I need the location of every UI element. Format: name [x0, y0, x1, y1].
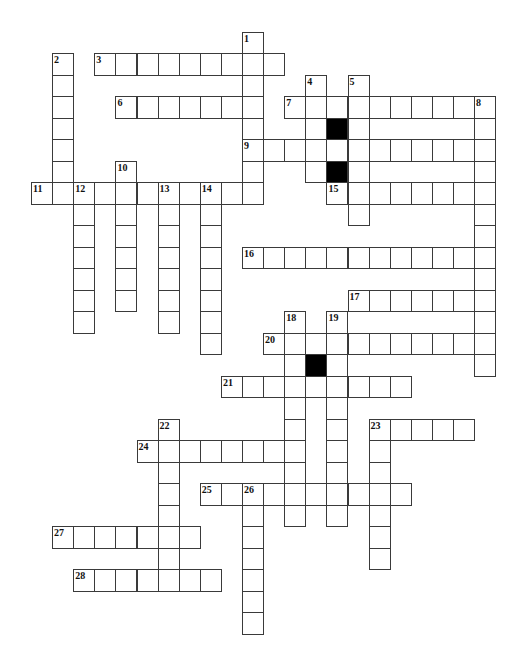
answer-cell[interactable]	[474, 204, 496, 227]
answer-cell[interactable]	[263, 376, 285, 399]
answer-cell[interactable]	[73, 290, 95, 313]
answer-cell[interactable]	[474, 311, 496, 334]
answer-cell[interactable]	[284, 419, 306, 442]
answer-cell[interactable]	[432, 333, 454, 356]
answer-cell[interactable]	[94, 569, 116, 592]
answer-cell[interactable]	[52, 161, 74, 184]
answer-cell[interactable]: 1	[242, 32, 264, 55]
answer-cell[interactable]	[390, 96, 412, 119]
answer-cell[interactable]	[432, 419, 454, 442]
answer-cell[interactable]	[390, 333, 412, 356]
answer-cell[interactable]	[348, 96, 370, 119]
answer-cell[interactable]	[348, 139, 370, 162]
answer-cell[interactable]	[474, 118, 496, 141]
answer-cell[interactable]	[200, 247, 222, 270]
answer-cell[interactable]	[432, 247, 454, 270]
answer-cell[interactable]	[242, 118, 264, 141]
answer-cell[interactable]	[305, 376, 327, 399]
answer-cell[interactable]: 4	[305, 75, 327, 98]
answer-cell[interactable]	[326, 440, 348, 463]
answer-cell[interactable]	[284, 376, 306, 399]
answer-cell[interactable]	[284, 139, 306, 162]
answer-cell[interactable]	[242, 548, 264, 571]
answer-cell[interactable]	[115, 225, 137, 248]
answer-cell[interactable]	[242, 75, 264, 98]
answer-cell[interactable]	[263, 247, 285, 270]
answer-cell[interactable]	[158, 204, 180, 227]
answer-cell[interactable]	[369, 290, 391, 313]
answer-cell[interactable]	[326, 505, 348, 528]
answer-cell[interactable]	[390, 376, 412, 399]
answer-cell[interactable]	[432, 139, 454, 162]
answer-cell[interactable]	[453, 96, 475, 119]
answer-cell[interactable]	[305, 161, 327, 184]
answer-cell[interactable]	[73, 526, 95, 549]
answer-cell[interactable]	[52, 96, 74, 119]
answer-cell[interactable]: 8	[474, 96, 496, 119]
answer-cell[interactable]	[369, 376, 391, 399]
answer-cell[interactable]	[158, 548, 180, 571]
answer-cell[interactable]	[453, 333, 475, 356]
answer-cell[interactable]	[242, 161, 264, 184]
answer-cell[interactable]: 19	[326, 311, 348, 334]
answer-cell[interactable]	[390, 247, 412, 270]
answer-cell[interactable]: 18	[284, 311, 306, 334]
answer-cell[interactable]	[158, 311, 180, 334]
answer-cell[interactable]: 20	[263, 333, 285, 356]
answer-cell[interactable]	[411, 182, 433, 205]
answer-cell[interactable]	[200, 53, 222, 76]
answer-cell[interactable]	[115, 204, 137, 227]
answer-cell[interactable]	[284, 333, 306, 356]
answer-cell[interactable]	[326, 376, 348, 399]
answer-cell[interactable]	[348, 376, 370, 399]
answer-cell[interactable]	[305, 118, 327, 141]
answer-cell[interactable]	[73, 204, 95, 227]
answer-cell[interactable]	[284, 440, 306, 463]
answer-cell[interactable]	[158, 53, 180, 76]
answer-cell[interactable]: 13	[158, 182, 180, 205]
answer-cell[interactable]	[52, 182, 74, 205]
answer-cell[interactable]	[432, 182, 454, 205]
answer-cell[interactable]	[390, 139, 412, 162]
answer-cell[interactable]: 26	[242, 483, 264, 506]
answer-cell[interactable]	[474, 161, 496, 184]
answer-cell[interactable]	[242, 53, 264, 76]
answer-cell[interactable]	[52, 118, 74, 141]
answer-cell[interactable]	[348, 161, 370, 184]
answer-cell[interactable]	[348, 204, 370, 227]
answer-cell[interactable]	[432, 290, 454, 313]
answer-cell[interactable]	[369, 462, 391, 485]
answer-cell[interactable]	[158, 96, 180, 119]
answer-cell[interactable]	[115, 290, 137, 313]
answer-cell[interactable]	[242, 182, 264, 205]
answer-cell[interactable]	[453, 419, 475, 442]
answer-cell[interactable]	[158, 225, 180, 248]
answer-cell[interactable]	[73, 311, 95, 334]
answer-cell[interactable]	[369, 440, 391, 463]
answer-cell[interactable]	[348, 247, 370, 270]
answer-cell[interactable]: 2	[52, 53, 74, 76]
answer-cell[interactable]	[179, 182, 201, 205]
answer-cell[interactable]	[390, 290, 412, 313]
answer-cell[interactable]	[348, 483, 370, 506]
answer-cell[interactable]	[179, 96, 201, 119]
answer-cell[interactable]	[474, 139, 496, 162]
answer-cell[interactable]	[200, 440, 222, 463]
answer-cell[interactable]	[369, 182, 391, 205]
answer-cell[interactable]	[158, 483, 180, 506]
answer-cell[interactable]: 24	[137, 440, 159, 463]
answer-cell[interactable]	[326, 139, 348, 162]
answer-cell[interactable]	[474, 290, 496, 313]
answer-cell[interactable]	[284, 397, 306, 420]
answer-cell[interactable]	[411, 96, 433, 119]
answer-cell[interactable]	[305, 247, 327, 270]
answer-cell[interactable]: 27	[52, 526, 74, 549]
answer-cell[interactable]	[115, 182, 137, 205]
answer-cell[interactable]	[432, 96, 454, 119]
answer-cell[interactable]	[411, 333, 433, 356]
answer-cell[interactable]	[369, 548, 391, 571]
answer-cell[interactable]	[115, 569, 137, 592]
answer-cell[interactable]	[305, 96, 327, 119]
answer-cell[interactable]: 21	[221, 376, 243, 399]
answer-cell[interactable]	[474, 354, 496, 377]
